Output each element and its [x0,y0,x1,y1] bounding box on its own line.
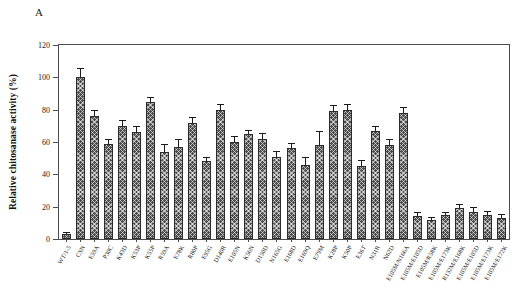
error-bar [347,105,348,110]
x-axis-tick-label: E168D [282,244,297,263]
panel-label: A [35,6,43,18]
bar-group: E105N [229,45,241,239]
x-axis-tick-label: E78K [171,244,184,260]
bar-group: E78K [173,45,185,239]
bar-group: E95G [201,45,213,239]
x-axis-tick [487,239,488,242]
bar [469,212,478,239]
bar-group: E105M/E105D [412,45,424,239]
error-bar-cap [77,68,84,69]
bar [497,218,506,239]
bar-group: R132M/E168K [454,45,466,239]
x-axis-tick [319,239,320,242]
bar [104,144,113,239]
bar [413,216,422,239]
error-bar-cap [161,144,168,145]
error-bar-cap [344,104,351,105]
bar-group: K53P [130,45,142,239]
bar-group: E105M/N166A [398,45,410,239]
error-bar [122,121,123,126]
error-bar-cap [386,139,393,140]
error-bar [150,98,151,101]
bar-group: E36T [355,45,367,239]
chart-plot-frame: 020406080100120 WT/1-5CSNE59AP30CK43DK53… [58,44,510,240]
x-axis-tick [403,239,404,242]
error-bar [487,212,488,215]
bar [174,147,183,239]
bar [258,139,267,239]
x-axis-tick-label: R59A [157,244,171,261]
x-axis-tick-label: E79M [311,244,325,261]
error-bar [80,69,81,77]
error-bar [94,111,95,116]
x-axis-tick [473,239,474,242]
x-axis-tick [150,239,151,242]
bar-group: E105M/E105D [468,45,480,239]
bar-group: CSN [74,45,86,239]
x-axis-tick-label: K53P [129,244,142,260]
x-axis-tick-label: E59A [87,244,100,260]
x-axis-tick [66,239,67,242]
x-axis-tick-label: E36T [354,244,367,260]
y-axis-tick-label: 0 [46,235,50,244]
error-bar [164,145,165,151]
x-axis-tick [164,239,165,242]
y-axis-tick-label: 120 [38,41,50,50]
error-bar [262,134,263,139]
error-bar [431,218,432,220]
bar [455,208,464,239]
plot-area: 020406080100120 WT/1-5CSNE59AP30CK43DK53… [59,45,509,239]
error-bar-cap [147,97,154,98]
bar [357,166,366,239]
error-bar-cap [470,207,477,208]
bar [188,123,197,239]
error-bar [403,108,404,113]
bar [76,77,85,239]
bar-group: E105M/R58K [426,45,438,239]
error-bar-cap [91,110,98,111]
x-axis-tick-label: E95G [199,244,212,260]
y-axis-tick-label: 100 [38,73,50,82]
error-bar-cap [400,107,407,108]
bar [244,134,253,239]
x-axis-tick [136,239,137,242]
bar-group: D140R [215,45,227,239]
bar-group: D150D [257,45,269,239]
bar-group: K28P [327,45,339,239]
x-axis-tick [276,239,277,242]
error-bar [417,213,418,216]
x-axis-tick-label: P30C [101,244,114,260]
error-bar [234,137,235,142]
error-bar-cap [316,131,323,132]
x-axis-tick [445,239,446,242]
error-bar-cap [442,212,449,213]
bar [202,161,211,239]
x-axis-tick [108,239,109,242]
bar [399,113,408,239]
error-bar [375,127,376,130]
bar [118,126,127,239]
x-axis-tick [291,239,292,242]
bar-group: E168D [285,45,297,239]
error-bar [361,161,362,166]
error-bar-cap [288,143,295,144]
y-axis-title: Relative chitosanase activity (%) [6,44,20,240]
bar-group: E105M/E173K [440,45,452,239]
x-axis-tick-label: K43D [115,244,129,261]
error-bar-cap [231,136,238,137]
error-bar-cap [203,157,210,158]
x-axis-tick [220,239,221,242]
x-axis-tick-label: N62D [382,244,396,261]
error-bar [276,152,277,157]
x-axis-tick [501,239,502,242]
error-bar [178,140,179,146]
error-bar-cap [273,151,280,152]
y-axis-tick-label: 80 [42,105,50,114]
bar [427,220,436,239]
error-bar [333,106,334,111]
x-axis-tick [431,239,432,242]
error-bar [248,131,249,134]
x-axis-tick [262,239,263,242]
error-bar [445,213,446,215]
bar-group: K43D [116,45,128,239]
